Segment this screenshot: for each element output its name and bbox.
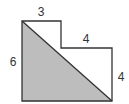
geometry-diagram: 3 4 6 4: [0, 0, 129, 104]
label-top-width: 3: [38, 5, 45, 19]
label-step-width: 4: [83, 32, 90, 46]
label-right-height: 4: [118, 70, 125, 84]
label-left-height: 6: [10, 55, 17, 69]
